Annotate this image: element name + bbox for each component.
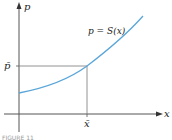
y-axis-label: p — [24, 1, 31, 12]
curve-label: p = S(x) — [88, 26, 126, 36]
x-axis-label: x — [164, 108, 170, 119]
x-bar-label: x̄ — [84, 118, 90, 129]
p-bar-label: p̄ — [4, 60, 11, 71]
y-axis-arrow-icon — [17, 2, 22, 9]
figure-caption: FIGURE 11 — [2, 134, 34, 140]
x-axis-arrow-icon — [156, 112, 163, 117]
supply-curve-diagram: p x p = S(x) p̄ x̄ FIGURE 11 — [0, 0, 172, 140]
